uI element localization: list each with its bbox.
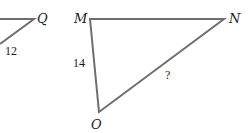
left-triangle-edges xyxy=(0,19,34,44)
vertex-label-m: M xyxy=(73,11,88,26)
triangle-mno: M N O 14 ? xyxy=(73,11,241,132)
vertex-label-q: Q xyxy=(37,11,48,26)
vertex-label-n: N xyxy=(228,11,241,26)
vertex-label-o: O xyxy=(91,117,102,132)
geometry-diagram: Q 12 M N O 14 ? xyxy=(0,0,250,133)
side-label-mo: 14 xyxy=(73,56,85,70)
side-label-no-unknown: ? xyxy=(165,68,170,82)
triangle-mno-edges xyxy=(90,19,224,112)
left-triangle: Q 12 xyxy=(0,11,48,58)
side-label-12: 12 xyxy=(5,44,17,58)
